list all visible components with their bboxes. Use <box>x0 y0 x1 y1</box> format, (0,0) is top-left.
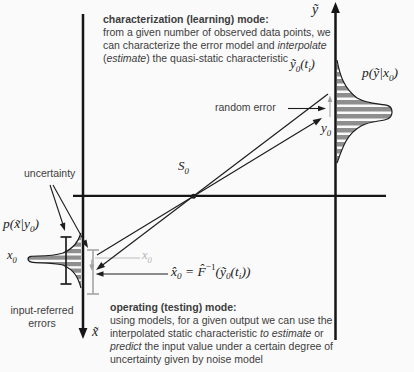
estimate-pointer-arrow <box>96 271 169 277</box>
x-axis-label: x̃ <box>92 324 98 340</box>
observed-output-label: ỹ0(ti) <box>290 56 315 74</box>
operating-mode-line5: uncertainty given by noise model <box>110 353 333 366</box>
interpolated-characteristic-arrowhead <box>96 262 105 270</box>
input-referred-error-bar <box>61 237 72 284</box>
estimate-formula: x̂0 = F̂−1(ỹ0(ti)) <box>171 262 250 281</box>
operating-mode-line2: using models, for a given output we can … <box>110 314 333 327</box>
operating-mode-line3: interpolated static characteristic to es… <box>110 327 333 340</box>
characterization-mode-line2: from a given number of observed data poi… <box>103 26 331 39</box>
true-input-label: x0 <box>7 248 17 265</box>
random-error-magnitude-arrow <box>328 96 333 118</box>
characterization-mode-title: characterization (learning) mode: <box>103 13 269 25</box>
input-pdf-label: p(x̃|y0) <box>3 216 39 234</box>
output-pdf-label: p(ỹ|x0) <box>362 65 398 83</box>
estimate-uncertainty-bar <box>87 250 99 294</box>
operating-point-dot <box>191 194 196 199</box>
output-axis-arrowhead <box>331 2 340 13</box>
input-referred-errors-label: input-referred errors <box>6 304 78 330</box>
uncertainty-label: uncertainty <box>24 167 75 180</box>
operating-mode-note: operating (testing) mode: using models, … <box>110 301 333 366</box>
true-output-label: y0 <box>321 120 331 138</box>
input-axis-arrowhead <box>79 328 88 339</box>
input-distribution-hatching <box>27 236 82 285</box>
input-noise-distribution <box>27 233 82 288</box>
operating-mode-title: operating (testing) mode: <box>110 301 237 313</box>
figure-quasi-static-characterization-diagram: characterization (learning) mode: from a… <box>0 0 414 372</box>
operating-mode-line4: predict the input value under a certain … <box>110 340 333 353</box>
random-error-label: random error <box>215 101 276 114</box>
input-distribution-outline <box>28 233 81 288</box>
operating-point-label: S0 <box>178 158 189 176</box>
input-marker-label: x0 <box>142 248 152 265</box>
y-axis-label: ỹ <box>312 2 318 18</box>
characterization-mode-line3: can characterize the error model and int… <box>103 39 331 52</box>
interpolated-characteristic-line <box>102 94 328 266</box>
true-characteristic-line <box>97 122 315 255</box>
